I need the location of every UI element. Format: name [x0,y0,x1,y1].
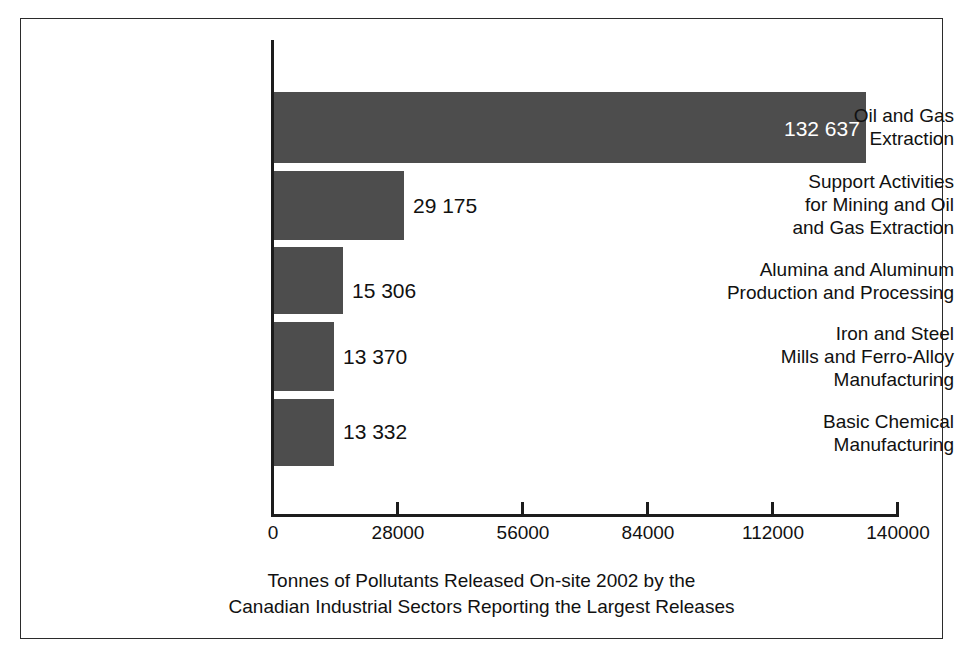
bar-value-iron-and-steel-mills: 13 370 [343,346,407,367]
category-label-line: for Mining and Oil [714,193,954,216]
x-tick-label-56000: 56000 [497,521,550,545]
x-tick-56000 [521,502,524,515]
category-label-alumina-and-aluminum: Alumina and Aluminum Production and Proc… [714,258,962,304]
figure: 0 28000 56000 84000 112000 140000 132 63… [0,0,962,657]
x-tick-0 [271,502,274,515]
caption-line-1: Tonnes of Pollutants Released On-site 20… [20,568,943,594]
category-label-line: Basic Chemical [714,410,954,433]
category-label-line: Oil and Gas [714,104,954,127]
bar-value-support-activities-mining-oil-gas: 29 175 [413,195,477,216]
category-label-line: Mills and Ferro-Alloy [714,345,954,368]
bar-iron-and-steel-mills [274,322,334,391]
chart-caption: Tonnes of Pollutants Released On-site 20… [20,568,943,620]
bar-basic-chemical-manufacturing [274,399,334,466]
category-label-line: Alumina and Aluminum [714,258,954,281]
category-label-line: and Gas Extraction [714,216,954,239]
category-label-support-activities-mining-oil-gas: Support Activities for Mining and Oil an… [714,170,962,239]
category-label-line: Iron and Steel [714,322,954,345]
category-label-line: Manufacturing [714,368,954,391]
bar-alumina-and-aluminum [274,247,343,314]
category-label-oil-and-gas-extraction: Oil and Gas Extraction [714,104,962,150]
bar-value-basic-chemical-manufacturing: 13 332 [343,421,407,442]
x-tick-label-84000: 84000 [622,521,675,545]
category-label-line: Support Activities [714,170,954,193]
x-tick-140000 [896,502,899,515]
category-label-line: Production and Processing [714,281,954,304]
x-tick-84000 [646,502,649,515]
category-label-iron-and-steel-mills: Iron and Steel Mills and Ferro-Alloy Man… [714,322,962,391]
caption-line-2: Canadian Industrial Sectors Reporting th… [20,594,943,620]
category-label-line: Manufacturing [714,433,954,456]
bar-support-activities-mining-oil-gas [274,171,404,240]
category-label-basic-chemical-manufacturing: Basic Chemical Manufacturing [714,410,962,456]
x-tick-28000 [396,502,399,515]
category-label-line: Extraction [714,127,954,150]
plot-area: 0 28000 56000 84000 112000 140000 132 63… [0,0,962,657]
x-tick-label-0: 0 [268,521,279,545]
x-axis-line [271,514,899,517]
x-tick-label-112000: 112000 [742,521,804,545]
bar-value-alumina-and-aluminum: 15 306 [352,280,416,301]
x-tick-label-28000: 28000 [372,521,425,545]
x-tick-label-140000: 140000 [866,521,929,545]
x-tick-112000 [771,502,774,515]
